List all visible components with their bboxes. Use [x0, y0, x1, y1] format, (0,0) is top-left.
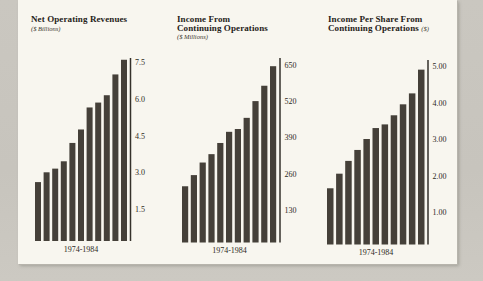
bar-1981: [391, 115, 398, 244]
bar-1976: [345, 161, 352, 245]
y-tick-label: 2.00: [433, 172, 447, 181]
bar-1984: [418, 70, 425, 245]
chart-2-x-range-label: 1974-1984: [182, 247, 277, 255]
bar-1978: [363, 139, 370, 245]
chart-1-group: 1.53.04.56.07.5: [35, 58, 145, 241]
bar-1982: [400, 104, 407, 244]
bar-1974: [35, 182, 41, 241]
bar-1977: [354, 150, 361, 245]
bar-1981: [244, 118, 250, 243]
bar-1983: [261, 86, 267, 243]
y-tick-label: 520: [285, 97, 297, 106]
bar-1976: [200, 163, 206, 243]
y-tick-label: 7.5: [135, 58, 145, 67]
bar-1981: [95, 103, 101, 241]
chart-3-group: 1.002.003.004.005.00: [327, 60, 447, 245]
y-tick-label: 3.00: [433, 135, 447, 144]
y-tick-label: 390: [285, 133, 297, 142]
chart-2-group: 130260390520650: [182, 58, 297, 243]
y-tick-label: 650: [285, 61, 297, 70]
bar-1979: [226, 132, 232, 243]
y-tick-label: 130: [285, 206, 297, 215]
scanned-annual-report-page: Net Operating Revenues ($ Billions) Inco…: [0, 0, 483, 281]
y-tick-label: 3.0: [135, 168, 145, 177]
bar-charts-canvas: 1.53.04.56.07.51302603905206501.002.003.…: [0, 0, 483, 281]
bar-1980: [87, 107, 93, 241]
bar-1982: [252, 101, 258, 242]
y-tick-label: 1.00: [433, 208, 447, 217]
bar-1979: [78, 129, 84, 241]
bar-1975: [191, 175, 197, 242]
bar-1977: [61, 161, 67, 241]
y-tick-label: 4.5: [135, 132, 145, 141]
bar-1982: [104, 95, 110, 241]
bar-1974: [327, 188, 334, 244]
bar-1983: [112, 74, 118, 241]
bar-1975: [336, 174, 343, 245]
y-tick-label: 1.5: [135, 205, 145, 214]
bar-1984: [121, 60, 127, 241]
bar-1974: [182, 186, 188, 242]
bar-1979: [373, 128, 380, 244]
bar-1983: [409, 93, 416, 244]
y-tick-label: 260: [285, 170, 297, 179]
bar-1978: [217, 143, 223, 243]
chart-3-x-range-label: 1974-1984: [327, 249, 425, 257]
bar-1975: [44, 172, 50, 241]
y-tick-label: 4.00: [433, 99, 447, 108]
y-tick-label: 6.0: [135, 95, 145, 104]
bar-1976: [52, 169, 58, 241]
bar-1977: [208, 154, 214, 242]
y-tick-label: 5.00: [433, 62, 447, 71]
chart-1-x-range-label: 1974-1984: [35, 246, 127, 254]
bar-1980: [235, 129, 241, 242]
bar-1978: [69, 143, 75, 241]
bar-1984: [270, 66, 276, 242]
bar-1980: [382, 124, 389, 244]
